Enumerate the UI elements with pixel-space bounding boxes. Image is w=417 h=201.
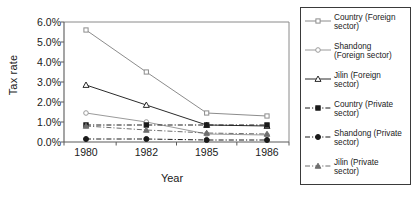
data-point-marker xyxy=(316,106,320,110)
legend-label: Country (Foreign sector) xyxy=(332,13,395,31)
legend-label: Jilin (Foreign sector) xyxy=(332,71,381,89)
legend-marker-open-square-icon xyxy=(304,14,332,28)
x-axis-title: Year xyxy=(62,172,282,184)
data-point-marker xyxy=(316,19,320,23)
legend-marker-open-triangle-icon xyxy=(304,72,332,86)
marker-square xyxy=(316,19,320,23)
legend-label: Country (Private sector) xyxy=(332,100,393,118)
legend-marker-filled-circle-icon xyxy=(304,130,332,144)
x-axis-tick-label: 1980 xyxy=(74,146,97,158)
x-axis-tick-label: 1986 xyxy=(255,146,278,158)
legend-label: Jilin (Private sector) xyxy=(332,158,379,176)
data-point-marker xyxy=(316,48,321,53)
legend-item: Jilin (Foreign sector) xyxy=(304,71,407,99)
marker-circle xyxy=(316,48,321,53)
marker-circle xyxy=(316,135,321,140)
legend-item: Country (Foreign sector) xyxy=(304,13,407,41)
marker-square xyxy=(316,106,320,110)
chart-legend: Country (Foreign sector)Shandong (Foreig… xyxy=(300,7,411,185)
legend-marker-open-circle-icon xyxy=(304,43,332,57)
x-axis-tick-label: 1982 xyxy=(135,146,158,158)
chart-figure: Tax rate 0.0%1.0%2.0%3.0%4.0%5.0%6.0% 19… xyxy=(0,0,417,201)
legend-item: Shandong (Foreign sector) xyxy=(304,42,407,70)
legend-item: Shandong (Private sector) xyxy=(304,129,407,157)
x-axis-tick-label: 1985 xyxy=(195,146,218,158)
legend-marker-filled-square-icon xyxy=(304,101,332,115)
legend-label: Shandong (Private sector) xyxy=(332,129,402,147)
legend-marker-filled-triangle-icon xyxy=(304,159,332,173)
data-point-marker xyxy=(315,163,321,168)
legend-item: Jilin (Private sector) xyxy=(304,158,407,186)
marker-triangle xyxy=(315,163,321,168)
legend-label: Shandong (Foreign sector) xyxy=(332,42,392,60)
data-point-marker xyxy=(316,135,321,140)
legend-item: Country (Private sector) xyxy=(304,100,407,128)
